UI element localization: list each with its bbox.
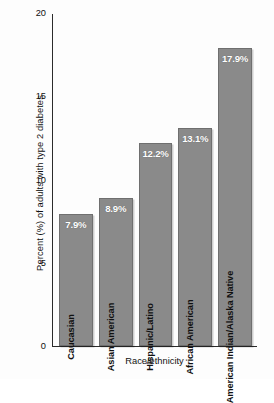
bar: 13.1%African American [178,128,212,346]
y-axis-tick-5: 5 [24,259,46,268]
y-axis-tick-labels: 05101520 [22,0,46,379]
plot-area: 7.9%Caucasian8.9%Asian American12.2%Hisp… [52,14,257,347]
y-axis-tick-15: 15 [24,92,46,101]
bar-category-label: Caucasian [66,314,76,360]
bar-value-label: 12.2% [140,148,172,159]
bar-value-label: 17.9% [219,53,251,64]
y-axis-tick-0: 0 [24,342,46,351]
bar-category-label: American Indian/Alaska Native [225,271,235,403]
bar-value-label: 7.9% [60,219,92,230]
x-axis-title: Race/ethnicity [52,356,257,366]
bar: 7.9%Caucasian [59,214,93,346]
bar: 12.2%Hispanic/Latino [139,143,173,346]
bar-value-label: 8.9% [100,203,132,214]
y-axis-tick-10: 10 [24,176,46,185]
y-axis-tick-20: 20 [24,9,46,18]
bar-value-label: 13.1% [179,133,211,144]
bar: 17.9%American Indian/Alaska Native [218,48,252,346]
bar: 8.9%Asian American [99,198,133,346]
bars-layer: 7.9%Caucasian8.9%Asian American12.2%Hisp… [53,14,257,346]
